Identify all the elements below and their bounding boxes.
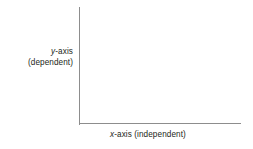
x-axis-label-role: (independent)	[134, 130, 186, 139]
y-axis-label-line-2: (dependent)	[28, 57, 73, 68]
y-axis-label-suffix: -axis	[55, 47, 73, 56]
y-axis-line	[79, 7, 80, 125]
axes-diagram: y-axis (dependent) x-axis (independent)	[0, 0, 253, 149]
x-axis-label: x-axis (independent)	[110, 129, 186, 140]
y-axis-label-line-1: y-axis	[28, 46, 73, 57]
x-axis-line	[79, 123, 241, 124]
y-axis-label: y-axis (dependent)	[28, 46, 73, 68]
x-axis-label-suffix: -axis	[114, 130, 134, 139]
